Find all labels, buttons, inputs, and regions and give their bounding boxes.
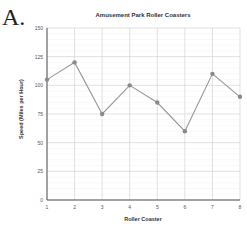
- data-point: [45, 77, 49, 81]
- x-tick-label: 5: [156, 204, 159, 210]
- data-point: [100, 112, 104, 116]
- x-tick-label: 7: [211, 204, 214, 210]
- y-tick-label: 75: [37, 111, 43, 117]
- x-tick-label: 2: [73, 204, 76, 210]
- data-point: [210, 72, 214, 76]
- data-point: [183, 129, 187, 133]
- data-point: [155, 100, 159, 104]
- x-tick-label: 8: [239, 204, 242, 210]
- data-point: [128, 83, 132, 87]
- x-tick-label: 4: [128, 204, 131, 210]
- data-point: [72, 60, 76, 64]
- x-tick-label: 1: [46, 204, 49, 210]
- y-tick-label: 100: [35, 82, 44, 88]
- x-tick-label: 6: [183, 204, 186, 210]
- y-tick-label: 50: [37, 140, 43, 146]
- y-tick-label: 0: [40, 197, 43, 203]
- line-chart-plot: 025507510012515012345678: [0, 0, 247, 229]
- x-tick-label: 3: [101, 204, 104, 210]
- y-tick-label: 150: [35, 25, 44, 31]
- data-point: [238, 95, 242, 99]
- y-tick-label: 25: [37, 168, 43, 174]
- y-tick-label: 125: [35, 54, 44, 60]
